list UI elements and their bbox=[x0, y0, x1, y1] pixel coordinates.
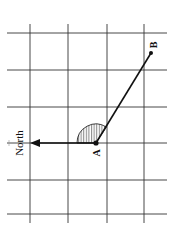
grid bbox=[7, 24, 167, 223]
north-label: North bbox=[13, 130, 25, 156]
bearing-diagram: North A B bbox=[0, 0, 175, 240]
point-b-label: B bbox=[148, 41, 159, 48]
north-arrowhead-icon bbox=[30, 139, 40, 147]
point-a bbox=[93, 140, 98, 145]
point-b bbox=[149, 51, 153, 55]
bearing-line-ab bbox=[96, 53, 151, 143]
point-a-label: A bbox=[91, 149, 102, 157]
